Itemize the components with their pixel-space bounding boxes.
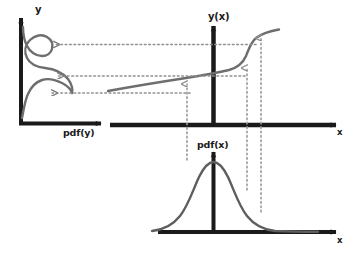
- pdfx-curve: [152, 162, 318, 232]
- pdf-y-axis-label: pdf(y): [63, 128, 94, 138]
- pdf-y-panel: [19, 18, 101, 124]
- pdf-x-panel: [152, 152, 336, 232]
- pdf-x-axis-label: pdf(x): [197, 140, 228, 150]
- yx-curve: [108, 30, 279, 92]
- y-axis-label: y: [35, 5, 41, 15]
- pdf-y-curve: [22, 27, 72, 118]
- x-axis-label-top: x: [337, 128, 342, 137]
- x-axis-label-bottom: x: [337, 236, 342, 245]
- diagram-canvas: [0, 0, 358, 256]
- transformation-diagram: y pdf(y) y(x) x pdf(x) x: [0, 0, 358, 256]
- y-of-x-axis-label: y(x): [208, 12, 229, 22]
